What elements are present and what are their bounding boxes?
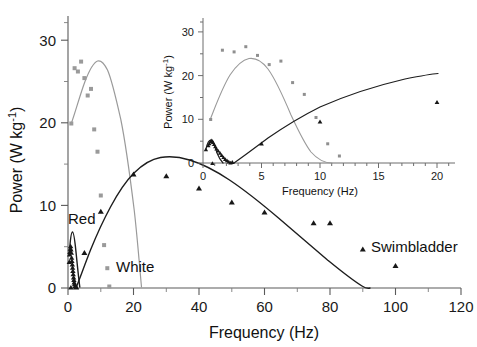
main-y-axis-title-sup: -1	[6, 112, 18, 122]
inset-x-ticklabel-20: 20	[431, 170, 443, 182]
inset-y-axis-title-base: Power (W kg	[162, 66, 174, 129]
inset-y-ticks	[198, 22, 203, 163]
inset-x-ticklabel-0: 0	[200, 170, 206, 182]
inset-x-ticklabel-15: 15	[372, 170, 384, 182]
inset-y-ticklabel-10: 10	[182, 113, 194, 125]
main-y-ticks	[61, 23, 68, 288]
annotation-red: Red	[68, 210, 96, 227]
inset-points-swimbladder	[230, 100, 440, 164]
main-y-ticklabel-0: 0	[48, 279, 56, 296]
inset-y-axis-title: Power (W kg-1)	[161, 55, 174, 129]
main-y-axis-title-close: )	[8, 107, 25, 112]
figure-root: 0 10 20 30 0 20 4	[0, 0, 477, 347]
main-x-ticks	[68, 288, 461, 295]
main-x-ticklabel-80: 80	[322, 298, 339, 315]
inset-x-ticks	[203, 163, 449, 168]
main-x-ticklabel-20: 20	[125, 298, 142, 315]
inset-points-white	[209, 45, 341, 157]
inset-y-ticklabel-30: 30	[182, 26, 194, 38]
main-y-ticklabel-30: 30	[39, 32, 56, 49]
inset-y-ticklabel-20: 20	[182, 70, 194, 82]
chart-canvas: 0 10 20 30 0 20 4	[0, 0, 477, 347]
main-x-axis-title: Frequency (Hz)	[209, 324, 319, 341]
inset-curve-swimbladder	[234, 74, 438, 164]
main-y-ticklabel-10: 10	[39, 197, 56, 214]
inset-chart: 0 10 20 30	[161, 18, 455, 197]
annotation-white: White	[116, 258, 154, 275]
main-x-ticklabel-100: 100	[383, 298, 408, 315]
svg-text:Power (W kg-1): Power (W kg-1)	[161, 55, 174, 129]
main-y-ticklabel-20: 20	[39, 114, 56, 131]
annotation-swimbladder: Swimbladder	[371, 238, 458, 255]
main-x-ticklabel-60: 60	[256, 298, 273, 315]
main-x-ticklabel-120: 120	[448, 298, 473, 315]
main-chart: 0 10 20 30 0 20 4	[6, 16, 474, 341]
svg-text:Power (W kg-1): Power (W kg-1)	[6, 107, 25, 214]
inset-y-ticklabel-0: 0	[188, 157, 194, 169]
inset-x-axis-title: Frequency (Hz)	[282, 185, 358, 197]
main-y-axis-title-base: Power (W kg	[8, 122, 25, 214]
main-x-ticklabel-0: 0	[64, 298, 72, 315]
main-y-axis-title: Power (W kg-1)	[6, 107, 25, 214]
inset-x-ticklabel-10: 10	[314, 170, 326, 182]
main-curve-white	[71, 61, 141, 287]
main-x-ticklabel-40: 40	[191, 298, 208, 315]
inset-y-axis-title-close: )	[162, 55, 174, 59]
inset-x-ticklabel-5: 5	[258, 170, 264, 182]
